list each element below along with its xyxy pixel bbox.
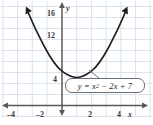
y-axis-label: y (66, 4, 70, 13)
x-tick-label-neg4: –4 (7, 110, 15, 119)
equation-equals: = (84, 81, 90, 91)
equation-term2: − 2x (101, 81, 117, 91)
y-tick-label-16: 16 (47, 9, 55, 18)
y-tick-label-12: 12 (47, 31, 55, 40)
graph-canvas (0, 0, 153, 125)
grid-lines (1, 1, 152, 117)
y-axis (59, 2, 65, 116)
x-tick-label-4: 4 (117, 110, 121, 119)
x-axis (2, 103, 148, 109)
x-axis-label: x (128, 110, 132, 119)
parabola-graph-figure: 16 12 4 y –4 –2 2 4 x y = x2 − 2x + 7 (0, 0, 153, 125)
x-tick-label-neg2: –2 (36, 110, 44, 119)
equation-lhs: y (78, 81, 82, 91)
equation-term3: + 7 (120, 81, 132, 91)
equation-callout-box: y = x2 − 2x + 7 (65, 78, 145, 93)
x-tick-label-2: 2 (88, 110, 92, 119)
y-tick-label-4: 4 (53, 75, 57, 84)
